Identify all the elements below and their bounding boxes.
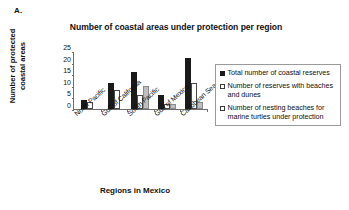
legend-item: Number of nesting beaches for marine tur… bbox=[220, 104, 337, 121]
y-axis-title: Number of protected coastal areas bbox=[8, 11, 30, 121]
legend-swatch-icon bbox=[220, 84, 225, 89]
chart-title: Number of coastal areas under protection… bbox=[36, 22, 316, 32]
y-tick-mark bbox=[72, 75, 74, 76]
y-axis-title-line1: Number of protected bbox=[8, 11, 18, 121]
y-tick-label: 20 bbox=[56, 56, 71, 64]
legend-label: Number of reserves with beaches and dune… bbox=[228, 82, 338, 99]
legend-item: Total number of coastal reserves bbox=[220, 69, 337, 77]
y-tick-mark bbox=[72, 52, 74, 53]
legend-swatch-icon bbox=[220, 71, 225, 76]
y-tick-label: 25 bbox=[56, 44, 71, 52]
y-tick-label: 10 bbox=[56, 79, 71, 87]
chart-legend: Total number of coastal reservesNumber o… bbox=[215, 64, 341, 126]
x-axis-title: Regions in Mexico bbox=[70, 186, 200, 195]
legend-label: Total number of coastal reserves bbox=[228, 69, 330, 77]
legend-label: Number of nesting beaches for marine tur… bbox=[228, 104, 338, 121]
y-axis-tick-labels: 0510152025 bbox=[56, 48, 71, 114]
y-tick-label: 0 bbox=[56, 102, 71, 110]
y-tick-label: 15 bbox=[56, 67, 71, 75]
y-tick-label: 5 bbox=[56, 90, 71, 98]
x-axis-tick-labels: North PacificGulf of CaliforniaSouth Pac… bbox=[73, 112, 213, 172]
legend-swatch-icon bbox=[220, 106, 225, 111]
y-axis-title-line2: coastal areas bbox=[18, 11, 28, 121]
legend-item: Number of reserves with beaches and dune… bbox=[220, 82, 337, 99]
y-tick-mark bbox=[72, 64, 74, 65]
y-tick-mark bbox=[72, 98, 74, 99]
y-tick-mark bbox=[72, 87, 74, 88]
